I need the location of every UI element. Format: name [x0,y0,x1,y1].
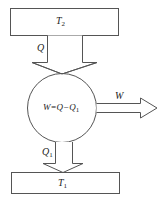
cold-reservoir-label: T1 [58,178,67,190]
hot-reservoir-subscript: 2 [62,20,66,28]
heat-out-label: Q1 [42,147,53,159]
work-out-label: W [115,91,123,101]
heat-in-label: Q [37,43,44,53]
heat-in-symbol: Q [37,42,44,53]
cold-reservoir-subscript: 1 [64,182,68,190]
heat-engine-diagram [0,0,163,205]
engine-label: W=Q−Q1 [43,103,79,114]
engine-equation-subscript: 1 [76,106,80,114]
hot-reservoir-label: T2 [56,16,65,28]
work-symbol: W [115,90,123,101]
heat-out-subscript: 1 [49,151,53,159]
engine-equation: W=Q−Q [43,102,76,112]
work-out-arrow [97,98,158,118]
